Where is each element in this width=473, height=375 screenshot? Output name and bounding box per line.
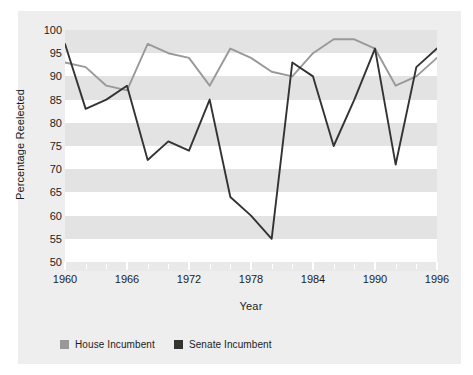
x-tick-label: 1960 <box>53 273 77 286</box>
y-tick-label: 65 <box>50 187 62 198</box>
x-tick-minor <box>148 264 149 269</box>
x-tick-minor <box>396 264 397 269</box>
y-tick-label: 70 <box>50 164 62 175</box>
y-axis-title: Percentage Reelected <box>14 55 34 235</box>
x-tick-label: 1978 <box>239 273 263 286</box>
x-tick-minor <box>210 264 211 269</box>
x-tick-label: 1996 <box>425 273 449 286</box>
x-tick-minor <box>416 264 417 269</box>
y-axis-tick-labels: 10095908580757065605550 <box>36 22 62 272</box>
line-series <box>65 44 437 239</box>
legend-swatch-icon <box>174 340 183 349</box>
y-tick-label: 60 <box>50 211 62 222</box>
x-axis-title: Year <box>65 300 437 312</box>
x-tick-major <box>374 262 376 270</box>
y-tick-label: 95 <box>50 48 62 59</box>
series-lines <box>65 30 437 262</box>
y-tick-label: 75 <box>50 141 62 152</box>
legend-label: Senate Incumbent <box>189 339 272 350</box>
x-tick-minor <box>354 264 355 269</box>
x-tick-major <box>188 262 190 270</box>
y-tick-label: 90 <box>50 71 62 82</box>
x-tick-label: 1990 <box>363 273 387 286</box>
x-tick-label: 1984 <box>301 273 325 286</box>
x-tick-major <box>250 262 252 270</box>
legend-item[interactable]: Senate Incumbent <box>174 339 272 350</box>
x-axis-strip <box>65 262 437 271</box>
x-tick-minor <box>230 264 231 269</box>
x-tick-major <box>312 262 314 270</box>
x-tick-minor <box>106 264 107 269</box>
x-tick-label: 1966 <box>115 273 139 286</box>
y-tick-label: 80 <box>50 118 62 129</box>
x-tick-label: 1972 <box>177 273 201 286</box>
chart-legend: House IncumbentSenate Incumbent <box>60 336 291 352</box>
legend-item[interactable]: House Incumbent <box>60 339 155 350</box>
y-tick-label: 50 <box>50 257 62 268</box>
legend-swatch-icon <box>60 340 69 349</box>
plot-area <box>65 30 437 262</box>
y-tick-label: 55 <box>50 234 62 245</box>
x-tick-major <box>64 262 66 270</box>
x-tick-minor <box>168 264 169 269</box>
x-tick-major <box>436 262 438 270</box>
x-tick-minor <box>86 264 87 269</box>
x-tick-minor <box>334 264 335 269</box>
x-tick-major <box>126 262 128 270</box>
x-tick-minor <box>292 264 293 269</box>
y-tick-label: 85 <box>50 95 62 106</box>
legend-label: House Incumbent <box>75 339 155 350</box>
x-tick-minor <box>272 264 273 269</box>
x-axis-tick-labels: 1960196619721978198419901996 <box>65 273 437 289</box>
chart-figure: Percentage Reelected 1009590858075706560… <box>0 0 473 375</box>
y-tick-label: 100 <box>44 25 62 36</box>
